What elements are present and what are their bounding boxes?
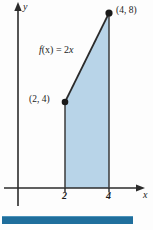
x-tick-label-4: 4 [106, 191, 111, 201]
footer-rule-bar [2, 216, 133, 224]
data-point-4-8 [105, 9, 112, 16]
x-tick-label-2: 2 [62, 191, 67, 201]
y-axis-label: y [23, 2, 27, 12]
function-label-body: (x) = 2 [42, 44, 69, 55]
figure-container: y x 2 4 (4, 8) (2, 4) f(x) = 2x [0, 0, 153, 230]
shaded-area-region [65, 13, 109, 188]
data-point-2-4 [62, 99, 69, 106]
point-label-lower: (2, 4) [29, 95, 50, 105]
y-axis-arrowhead [14, 2, 21, 11]
function-label-variable: x [69, 44, 73, 55]
plot-area [0, 0, 153, 230]
x-axis-label: x [143, 190, 147, 200]
function-equation-label: f(x) = 2x [39, 45, 74, 55]
point-label-upper: (4, 8) [116, 6, 137, 16]
